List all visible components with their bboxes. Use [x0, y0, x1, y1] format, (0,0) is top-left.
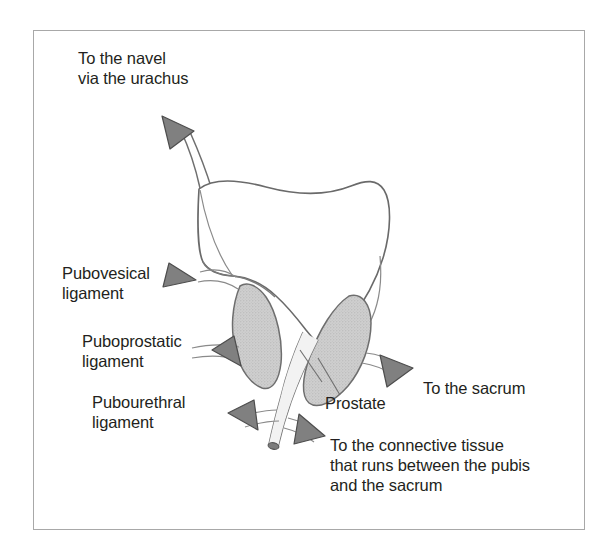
label-prostate: Prostate — [325, 393, 386, 413]
label-pubovesical-ligament: Pubovesical ligament — [62, 263, 150, 303]
label-to-the-navel: To the navel via the urachus — [78, 48, 188, 88]
arrow-pubovesical-icon — [163, 263, 196, 287]
label-puboprostatic-ligament: Puboprostatic ligament — [82, 331, 182, 371]
arrow-pubourethral-icon — [228, 400, 258, 430]
urachus-line-left — [181, 131, 200, 188]
arrow-urachus-icon — [162, 116, 194, 149]
prostate-lobe-left — [233, 284, 282, 388]
urachus-group — [181, 131, 212, 190]
arrow-sacrum-icon — [380, 355, 413, 387]
label-to-the-connective-tissue: To the connective tissue that runs betwe… — [330, 435, 530, 495]
label-pubourethral-ligament: Pubourethral ligament — [92, 392, 185, 432]
arrow-connective-icon — [294, 414, 325, 444]
figure-root: To the navel via the urachus Pubovesical… — [0, 0, 607, 550]
label-to-the-sacrum: To the sacrum — [423, 378, 525, 398]
